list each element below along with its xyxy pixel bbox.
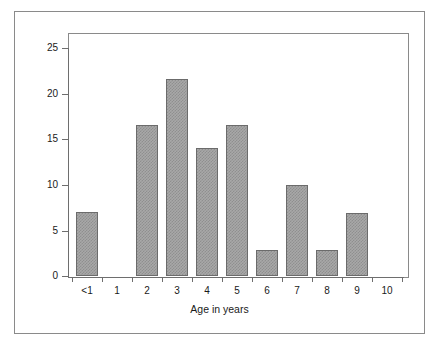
- figure-canvas: 0 5 10 15 20 25 <1 1 2 3 4 5 6 7 8 9 10: [0, 0, 439, 346]
- x-axis-title: Age in years: [0, 303, 439, 315]
- plot-frame-box: [68, 33, 409, 278]
